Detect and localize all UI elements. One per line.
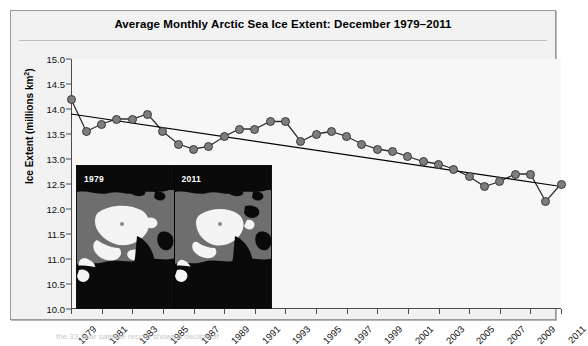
data-point-marker (557, 180, 566, 189)
y-axis-tick-label: 13.5 (47, 129, 66, 140)
x-axis-tick (347, 309, 348, 314)
inset-year-label: 1979 (84, 174, 104, 184)
data-point-marker (312, 130, 321, 139)
inset-map-1979: 1979 (77, 166, 174, 308)
data-point-marker (112, 115, 121, 124)
inset-map-2011: 2011 (174, 166, 272, 308)
x-axis-tick (194, 309, 195, 314)
y-axis-tick-label: 14.0 (47, 104, 66, 115)
data-point-marker (174, 140, 183, 149)
inset-map-pair: 1979 (76, 165, 272, 309)
title-divider (19, 40, 547, 41)
cutoff-caption-strip: the 33-year satellite record shows a dec… (0, 332, 568, 341)
y-axis-tick-label: 15.0 (47, 54, 66, 65)
y-axis-tick-label: 13.0 (47, 154, 66, 165)
data-point-marker (434, 160, 443, 169)
y-axis-tick-label: 10.5 (47, 279, 66, 290)
data-point-marker (327, 127, 336, 136)
data-point-marker (419, 157, 428, 166)
y-axis-tick-label: 12.5 (47, 179, 66, 190)
data-point-marker (128, 115, 137, 124)
x-axis-tick-label: 2011 (566, 323, 588, 345)
data-point-marker (373, 145, 382, 154)
data-point-marker (67, 95, 76, 104)
cutoff-caption-text: the 33-year satellite record shows a dec… (56, 332, 219, 341)
x-axis-tick (163, 309, 164, 314)
data-point-marker (250, 125, 259, 134)
data-point-marker (189, 145, 198, 154)
data-point-marker (526, 170, 535, 179)
x-axis-tick (102, 309, 103, 314)
x-axis-tick (132, 309, 133, 314)
x-axis-tick (530, 309, 531, 314)
y-axis-tick-label: 11.5 (47, 229, 65, 240)
data-point-marker (281, 117, 290, 126)
x-axis-tick (255, 309, 256, 314)
y-axis-label: Ice Extent (millions km2) (23, 68, 35, 184)
y-axis-tick-label: 12.0 (47, 204, 66, 215)
data-point-marker (465, 172, 474, 181)
data-point-marker (480, 182, 489, 191)
data-point-marker (220, 132, 229, 141)
x-axis-tick (71, 309, 72, 314)
data-point-marker (266, 117, 275, 126)
data-point-marker (449, 165, 458, 174)
data-point-marker (511, 170, 520, 179)
x-axis-tick (285, 309, 286, 314)
arctic-map-icon (175, 166, 272, 308)
x-axis-tick (500, 309, 501, 314)
data-point-marker (235, 125, 244, 134)
y-axis-tick-label: 11.0 (47, 254, 65, 265)
x-axis-tick (408, 309, 409, 314)
x-axis-tick (224, 309, 225, 314)
inset-year-label: 2011 (182, 174, 202, 184)
x-axis-tick (377, 309, 378, 314)
arctic-map-icon (77, 166, 174, 308)
data-point-marker (82, 127, 91, 136)
data-point-marker (388, 147, 397, 156)
x-axis-tick (561, 309, 562, 314)
plot-area: 15.014.514.013.513.012.512.011.511.010.5… (71, 59, 561, 309)
y-axis-tick-label: 14.5 (47, 79, 66, 90)
x-axis-tick (439, 309, 440, 314)
x-axis-tick (316, 309, 317, 314)
data-point-marker (357, 140, 366, 149)
data-point-marker (97, 120, 106, 129)
x-axis-tick (469, 309, 470, 314)
chart-figure: Average Monthly Arctic Sea Ice Extent: D… (10, 10, 556, 320)
data-point-marker (143, 110, 152, 119)
y-axis-tick-label: 10.0 (47, 304, 66, 315)
chart-title: Average Monthly Arctic Sea Ice Extent: D… (11, 18, 555, 30)
